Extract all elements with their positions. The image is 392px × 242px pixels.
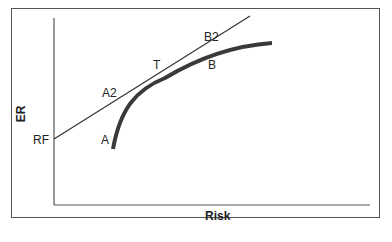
label-b2: B2 xyxy=(204,31,219,43)
chart-plot xyxy=(0,0,392,242)
label-a: A xyxy=(101,134,109,146)
label-rf: RF xyxy=(33,134,49,146)
x-axis-title: Risk xyxy=(205,210,230,222)
capital-market-line xyxy=(54,16,250,139)
label-b: B xyxy=(208,59,216,71)
efficient-frontier-curve xyxy=(113,43,272,149)
label-t: T xyxy=(153,59,160,71)
y-axis-title: ER xyxy=(15,106,27,123)
label-a2: A2 xyxy=(102,87,117,99)
